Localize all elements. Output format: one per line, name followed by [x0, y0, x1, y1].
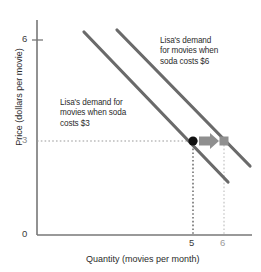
point-marker-quantity-5: [188, 136, 197, 145]
right-curve-label: Lisa's demand for movies when soda costs…: [160, 36, 252, 67]
left-curve-label: Lisa's demand for movies when soda costs…: [60, 98, 155, 129]
y-tick-label-0: 0: [22, 228, 27, 239]
x-tick-label-5: 5: [189, 237, 194, 248]
demand-shift-chart: Lisa's demand for movies when soda costs…: [0, 0, 261, 272]
x-tick-label-6: 6: [220, 237, 225, 248]
point-marker-quantity-6: [220, 137, 229, 146]
shift-arrow-icon: [199, 133, 219, 149]
y-axis-title: Price (dollars per movie): [14, 32, 24, 162]
x-axis-title: Quantity (movies per month): [86, 254, 200, 264]
